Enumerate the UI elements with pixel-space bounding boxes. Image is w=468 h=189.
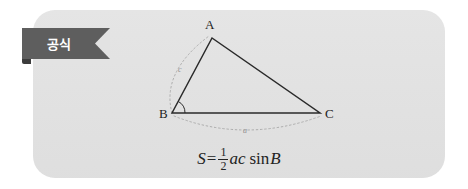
- dashed-arc-side-c: [170, 36, 209, 113]
- dashed-arc-side-a: [174, 116, 321, 130]
- formula-function: sin: [249, 149, 269, 169]
- formula-product: ac: [229, 149, 245, 169]
- formula-lhs: S: [197, 149, 206, 169]
- formula-argument: B: [270, 149, 280, 169]
- side-label-a: a: [243, 126, 247, 135]
- fraction-numerator: 1: [218, 146, 228, 158]
- ribbon-label: 공식: [22, 28, 96, 59]
- vertex-label-b: B: [159, 106, 168, 122]
- ribbon-banner: 공식: [22, 28, 110, 59]
- ribbon-fold-tail: [22, 59, 31, 64]
- formula-equals: =: [207, 149, 217, 169]
- vertex-label-c: C: [325, 106, 334, 122]
- side-label-c: c: [178, 65, 182, 74]
- formula-area: S=12acsinB: [33, 143, 445, 175]
- formula-fraction: 12: [218, 146, 228, 171]
- angle-arc-B: [178, 101, 185, 113]
- vertex-label-a: A: [205, 17, 214, 33]
- formula-expression: S=12acsinB: [197, 146, 280, 171]
- fraction-denominator: 2: [218, 160, 228, 172]
- screenshot-canvas: A B C c a 공식 S=12acsinB: [0, 0, 468, 189]
